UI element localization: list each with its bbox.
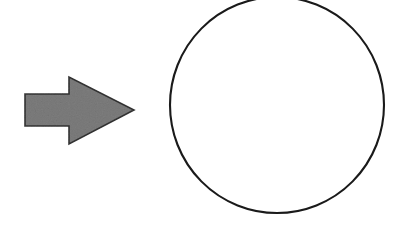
diagram-scene — [0, 0, 408, 228]
diagram-canvas — [0, 0, 408, 228]
